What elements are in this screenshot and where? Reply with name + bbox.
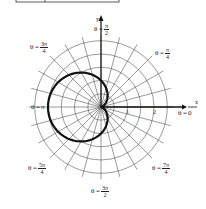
y-axis-label: y	[96, 16, 99, 22]
angle-label-pi-over-4: θ = π4	[155, 47, 170, 60]
angle-label-pi-over-2: θ = π2	[94, 23, 109, 36]
angle-label-7pi-over-4: θ = 7π4	[152, 162, 170, 175]
table-fragment	[16, 0, 119, 2]
tick-1: 1	[126, 109, 129, 115]
angle-label-0: θ = 0	[178, 110, 192, 117]
angle-label-5pi-over-4: θ = 5π4	[28, 162, 46, 175]
tick-2: 2	[153, 109, 156, 115]
angle-label-3pi-over-2: θ = 3π2	[91, 185, 109, 198]
angle-label-3pi-over-4: θ = 3π4	[30, 41, 48, 54]
angle-label-pi: θ = π	[31, 104, 45, 111]
x-axis-label: x	[195, 99, 198, 105]
